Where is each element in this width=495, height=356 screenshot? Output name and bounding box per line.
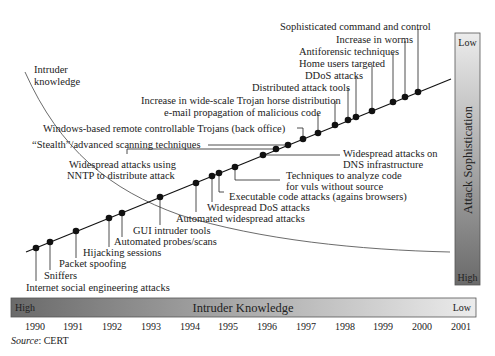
event-dot [232, 164, 239, 171]
event-dot [209, 173, 216, 180]
event-label: DDoS attacks [305, 70, 363, 81]
source-prefix: Source [11, 335, 39, 346]
year-label: 1990 [25, 321, 45, 332]
event-dot [216, 170, 223, 177]
year-label: 1992 [102, 321, 122, 332]
x-axis-title: Intruder Knowledge [192, 301, 293, 315]
event-dot [119, 210, 126, 217]
source-note: Source: CERT [11, 335, 69, 346]
event-label: Windows-based remote controllable Trojan… [43, 123, 286, 135]
event-label: for vuls without source [286, 181, 383, 192]
event-dot [402, 94, 409, 101]
event-dot [369, 108, 376, 115]
event-dot [390, 99, 397, 106]
event-label: Sophisticated command and control [280, 21, 431, 32]
event-label: DNS infrastructure [343, 159, 424, 170]
event-label: Increase in wide-scale Trojan horse dist… [141, 95, 341, 106]
event-label: Packet spoofing [59, 258, 127, 269]
year-labels: 1990 1991 1992 1993 1994 1995 1996 1997 … [25, 321, 471, 332]
intruder-knowledge-axis-bar: High Low Intruder Knowledge [11, 298, 476, 317]
event-label: Techniques to analyze code [286, 170, 402, 181]
event-dot [47, 239, 54, 246]
event-dot [415, 89, 422, 96]
event-label: Executable code attacks (agains browsers… [229, 191, 407, 203]
event-label: Antiforensic techniques [299, 46, 399, 57]
event-dot [193, 180, 200, 187]
event-label: Distributed attack tools [252, 82, 350, 93]
event-label: Internet social engineering attacks [26, 282, 170, 293]
event-label: NNTP to distribute attack [67, 170, 176, 181]
curve-label-line2: knowledge [34, 76, 80, 87]
event-dot [106, 215, 113, 222]
event-dot [73, 228, 80, 235]
event-labels: Internet social engineering attacks Snif… [26, 21, 438, 293]
axis-left-label: High [15, 302, 35, 313]
year-label: 1998 [335, 321, 355, 332]
year-label: 1994 [180, 321, 200, 332]
event-label: Widespread DoS attacks [207, 202, 310, 213]
axis-right-label: Low [453, 302, 472, 313]
year-label: 1997 [296, 321, 316, 332]
attack-sophistication-chart: Low High Attack Sophistication High Low … [0, 0, 495, 356]
event-label: e-mail propagation of malicious code [164, 107, 321, 118]
attack-sophistication-axis-bar: Low High Attack Sophistication [455, 33, 480, 285]
event-label: Home users targeted [299, 58, 386, 69]
year-label: 1995 [218, 321, 238, 332]
year-label: 1993 [141, 321, 161, 332]
event-dot [345, 117, 352, 124]
year-label: 2000 [412, 321, 432, 332]
year-label: 1991 [63, 321, 83, 332]
curve-label-line1: Intruder [34, 64, 68, 75]
event-label: “Stealth”/advanced scanning techniques [32, 139, 201, 150]
event-dot [157, 194, 164, 201]
y-axis-title: Attack Sophistication [461, 105, 475, 214]
event-dot [260, 152, 267, 159]
event-dot [33, 245, 40, 252]
axis-top-label: Low [458, 37, 477, 48]
event-label: Increase in worms [336, 34, 413, 45]
event-dot [285, 142, 292, 149]
year-label: 1999 [373, 321, 393, 332]
axis-bottom-label: High [458, 272, 478, 283]
year-label: 1996 [257, 321, 277, 332]
year-label: 2001 [451, 321, 471, 332]
event-label: Hijacking sessions [83, 247, 161, 258]
event-label: Automated widespread attacks [176, 213, 305, 224]
event-dot [300, 136, 307, 143]
event-label: Widespread attacks using [69, 159, 177, 170]
event-label: Widespread attacks on [343, 148, 438, 159]
event-label: GUI intruder tools [133, 225, 211, 236]
event-label: Sniffers [44, 270, 77, 281]
event-dot [273, 146, 280, 153]
event-dot [332, 122, 339, 129]
source-name: CERT [44, 335, 69, 346]
event-label: Automated probes/scans [114, 236, 217, 247]
event-dot [315, 130, 322, 137]
event-dot [353, 114, 360, 121]
